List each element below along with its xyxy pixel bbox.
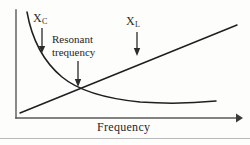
bottom-divider <box>0 138 250 139</box>
xc-subscript: C <box>42 17 47 26</box>
xc-label: XC <box>33 11 47 26</box>
x-axis-label: Frequency <box>97 120 150 135</box>
xl-symbol: X <box>126 14 135 28</box>
xl-label: XL <box>126 14 140 29</box>
resonant-frequency-label: Resonant trequency <box>52 33 95 59</box>
xl-subscript: L <box>135 20 140 29</box>
xl-arrow-icon <box>134 32 140 56</box>
resonant-frequency-line-2: trequency <box>52 46 95 59</box>
resonant-frequency-arrow-icon <box>75 61 81 87</box>
reactance-vs-frequency-figure: XC XL Resonant trequency Frequency <box>0 0 250 145</box>
xc-symbol: X <box>33 11 42 25</box>
x-axis-arrowhead <box>236 114 243 123</box>
resonant-frequency-line-1: Resonant <box>52 33 95 46</box>
